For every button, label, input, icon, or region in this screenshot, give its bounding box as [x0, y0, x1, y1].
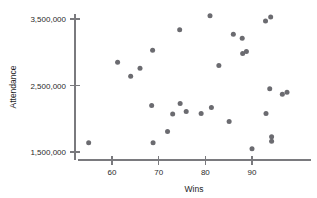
data-point — [170, 112, 175, 117]
data-point — [86, 140, 91, 145]
y-tick-group: 1,500,0002,500,0003,500,000 — [30, 15, 80, 157]
axes-group — [75, 14, 311, 160]
x-tick-label: 70 — [154, 168, 163, 177]
y-tick-label: 2,500,000 — [30, 82, 66, 91]
y-axis-title: Attendance — [8, 65, 18, 108]
scatter-plot-figure: 1,500,0002,500,0003,500,000 60708090 Win… — [0, 0, 317, 198]
x-tick-label: 80 — [201, 168, 210, 177]
plot-canvas: 1,500,0002,500,0003,500,000 60708090 Win… — [0, 0, 317, 198]
data-point — [151, 140, 156, 145]
y-tick-label: 3,500,000 — [30, 15, 66, 24]
data-point — [263, 19, 268, 24]
data-point — [115, 60, 120, 65]
data-point — [240, 36, 245, 41]
data-point — [269, 139, 274, 144]
data-point — [150, 48, 155, 53]
data-point — [184, 109, 189, 114]
data-point — [138, 66, 143, 71]
data-point — [268, 15, 273, 20]
data-point — [149, 103, 154, 108]
y-tick-label: 1,500,000 — [30, 148, 66, 157]
data-point — [216, 63, 221, 68]
x-axis-title: Wins — [185, 184, 204, 194]
data-point — [165, 129, 170, 134]
data-point — [264, 111, 269, 116]
data-point — [244, 49, 249, 54]
data-point — [250, 146, 255, 151]
data-point — [128, 74, 133, 79]
data-point — [209, 105, 214, 110]
data-point — [178, 101, 183, 106]
data-point — [231, 32, 236, 37]
data-point — [199, 111, 204, 116]
data-point — [280, 92, 285, 97]
x-tick-label: 60 — [108, 168, 117, 177]
data-point — [227, 119, 232, 124]
data-point — [269, 134, 274, 139]
data-point — [285, 90, 290, 95]
data-point — [267, 86, 272, 91]
data-points-group — [86, 13, 289, 151]
data-point — [208, 13, 213, 18]
data-point — [177, 27, 182, 32]
x-tick-label: 90 — [248, 168, 257, 177]
x-tick-group: 60708090 — [108, 156, 257, 177]
